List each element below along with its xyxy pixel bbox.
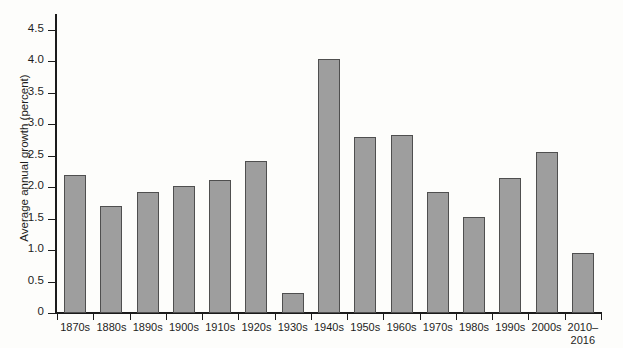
bar: [572, 253, 594, 313]
y-axis-tick-label: 0: [8, 305, 44, 317]
bar: [427, 192, 449, 313]
bars-container: [57, 14, 602, 313]
bar: [100, 206, 122, 313]
y-axis-tick-mark: [48, 124, 56, 125]
bar: [209, 180, 231, 313]
y-axis-tick-mark: [48, 250, 56, 251]
x-axis-tick-mark: [166, 313, 167, 320]
y-axis-tick-label: 0.5: [8, 274, 44, 286]
bar: [354, 137, 376, 313]
x-axis-tick-mark: [57, 313, 58, 320]
x-axis-tick-label: 1880s: [93, 321, 129, 334]
y-axis-tick-mark: [48, 61, 56, 62]
x-axis-tick-mark: [492, 313, 493, 320]
y-axis-tick-label: 4.0: [8, 53, 44, 65]
y-axis-tick-label: 2.5: [8, 148, 44, 160]
bar-chart-figure: Average annual growth (percent) 00.51.01…: [0, 0, 623, 348]
y-axis-tick-label: 4.5: [8, 22, 44, 34]
x-axis-tick-label: 1890s: [130, 321, 166, 334]
x-axis-tick-mark: [202, 313, 203, 320]
x-axis-tick-label: 1910s: [202, 321, 238, 334]
x-axis-tick-mark: [238, 313, 239, 320]
x-axis-tick-label: 1900s: [166, 321, 202, 334]
bar: [173, 186, 195, 313]
y-axis-tick-mark: [48, 156, 56, 157]
x-axis-tick-mark: [383, 313, 384, 320]
y-axis-tick-mark: [48, 93, 56, 94]
x-axis-tick-mark: [347, 313, 348, 320]
x-axis-tick-mark: [311, 313, 312, 320]
x-axis-tick-mark: [420, 313, 421, 320]
bar: [463, 217, 485, 313]
y-axis-tick-label: 3.0: [8, 116, 44, 128]
y-axis-tick-mark: [48, 187, 56, 188]
y-axis-tick-mark: [48, 313, 56, 314]
bar: [391, 135, 413, 313]
x-axis-tick-label: 1990s: [492, 321, 528, 334]
x-axis-tick-label: 1870s: [57, 321, 93, 334]
x-axis-tick-label: 1980s: [456, 321, 492, 334]
x-axis-tick-label: 1970s: [420, 321, 456, 334]
x-axis-tick-label: 2000s: [528, 321, 564, 334]
x-axis-tick-label: 1930s: [275, 321, 311, 334]
x-axis-tick-mark: [456, 313, 457, 320]
x-axis-tick-mark: [93, 313, 94, 320]
bar: [245, 161, 267, 313]
x-axis-tick-label: 2010– 2016: [565, 321, 601, 346]
x-axis-tick-label: 1920s: [238, 321, 274, 334]
x-axis-tick-label: 1950s: [347, 321, 383, 334]
y-axis-tick-label: 1.0: [8, 242, 44, 254]
x-axis-tick-mark: [528, 313, 529, 320]
bar: [536, 152, 558, 313]
x-axis-tick-mark: [275, 313, 276, 320]
y-axis-tick-mark: [48, 30, 56, 31]
x-axis-tick-label: 1940s: [311, 321, 347, 334]
y-axis-tick-label: 2.0: [8, 179, 44, 191]
bar: [137, 192, 159, 313]
y-axis-tick-mark: [48, 219, 56, 220]
bar: [499, 178, 521, 313]
y-axis-tick-mark: [48, 282, 56, 283]
y-axis-tick-label: 3.5: [8, 85, 44, 97]
x-axis-tick-label: 1960s: [383, 321, 419, 334]
x-axis-tick-mark: [565, 313, 566, 320]
y-axis-tick-label: 1.5: [8, 211, 44, 223]
x-axis-tick-mark: [130, 313, 131, 320]
bar: [64, 175, 86, 313]
bar: [282, 293, 304, 313]
x-axis-tick-mark: [601, 313, 602, 320]
bar: [318, 59, 340, 313]
